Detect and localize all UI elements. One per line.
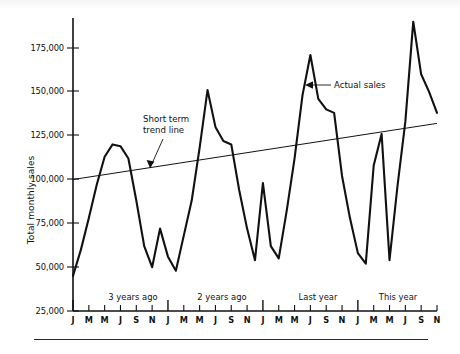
- y-tick-label-75000: 75,000: [36, 218, 64, 228]
- footer-rule: [34, 339, 428, 340]
- actual-sales-arrow-icon: [305, 81, 313, 89]
- y-tick-label-25000: 25,000: [36, 306, 64, 316]
- y-axis-title: Total monthly sales: [26, 155, 36, 245]
- x-tick-label: J: [70, 315, 74, 325]
- period-label-last-year: Last year: [299, 292, 338, 302]
- x-tick-label: M: [196, 315, 204, 325]
- x-tick-label: M: [101, 315, 109, 325]
- trend-annotation-text-line2: trend line: [143, 125, 184, 135]
- x-tick-label: S: [323, 315, 329, 325]
- x-tick-label: M: [290, 315, 298, 325]
- x-tick-label: J: [118, 315, 122, 325]
- x-tick-label: M: [180, 315, 188, 325]
- x-tick-label: J: [213, 315, 217, 325]
- actual-sales-annotation-text: Actual sales: [334, 80, 386, 90]
- x-tick-label: J: [260, 315, 264, 325]
- y-tick-label-175000: 175,000: [30, 43, 64, 53]
- x-tick-label: J: [403, 315, 407, 325]
- x-tick-label: M: [85, 315, 93, 325]
- x-tick-label: J: [165, 315, 169, 325]
- trend-line-annotation: Short term trend line: [143, 114, 189, 168]
- trend-annotation-text-line1: Short term: [143, 114, 189, 124]
- period-label-3-years-ago: 3 years ago: [108, 292, 157, 302]
- y-tick-label-50000: 50,000: [36, 262, 64, 272]
- x-tick-label: M: [370, 315, 378, 325]
- x-tick-labels: JMMJSNJMMJSNJMMJSNJMMJSN: [70, 315, 440, 325]
- x-tick-label: N: [244, 315, 251, 325]
- x-tick-label: S: [228, 315, 234, 325]
- y-tick-label-150000: 150,000: [30, 86, 64, 96]
- x-tick-label: M: [275, 315, 283, 325]
- x-tick-label: M: [385, 315, 393, 325]
- x-tick-label: N: [149, 315, 156, 325]
- x-tick-label: S: [133, 315, 139, 325]
- x-tick-label: N: [434, 315, 441, 325]
- x-tick-label: J: [355, 315, 359, 325]
- x-tick-label: S: [418, 315, 424, 325]
- period-label-this-year: This year: [378, 292, 418, 302]
- actual-sales-line: [73, 22, 437, 276]
- x-tick-label: N: [339, 315, 346, 325]
- chart-svg: 175,000 150,000 125,000 100,000 75,000 5…: [0, 0, 460, 354]
- y-tick-label-125000: 125,000: [30, 130, 64, 140]
- sales-chart: 175,000 150,000 125,000 100,000 75,000 5…: [0, 0, 460, 354]
- x-tick-label: J: [308, 315, 312, 325]
- period-label-2-years-ago: 2 years ago: [197, 292, 246, 302]
